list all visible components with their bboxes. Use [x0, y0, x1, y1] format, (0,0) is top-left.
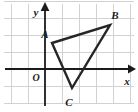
vertex-label-b: B: [110, 9, 118, 21]
y-axis-label: y: [32, 6, 39, 18]
x-axis-label: x: [123, 75, 130, 87]
origin-label: O: [32, 72, 39, 83]
coordinate-plane-figure: A B C O x y: [0, 0, 138, 112]
coordinate-plane-svg: A B C O x y: [0, 0, 138, 112]
vertex-label-a: A: [40, 28, 48, 40]
vertex-label-c: C: [65, 96, 73, 108]
